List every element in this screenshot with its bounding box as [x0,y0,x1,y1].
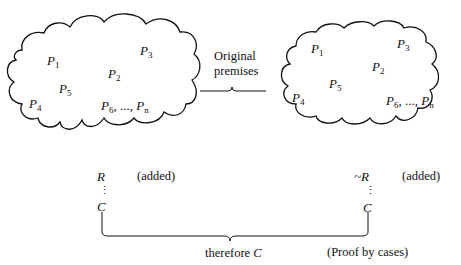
right-premise-p5: P5 [329,77,341,93]
right-case-assumption: ~R [354,170,369,183]
left-premise-range: P6, ..., Pn [101,99,149,115]
right-premise-range: P6, ..., Pn [386,94,434,110]
therefore-conclusion: therefore C [205,247,262,260]
original-premises-label: Originalpremises [214,50,252,77]
original-premises-brace [200,87,266,91]
proof-by-cases-label: (Proof by cases) [327,246,408,259]
left-premise-p5: P5 [59,82,71,98]
right-premise-p2: P2 [372,60,384,76]
left-premise-p4: P4 [29,97,41,113]
right-case-ellipsis: ⋮ [365,185,376,196]
right-premise-p4: P4 [292,91,304,107]
left-premise-p1: P1 [47,54,59,70]
right-premise-p1: P1 [311,42,323,58]
left-case-assumption: R [97,170,105,183]
diagram-lines [0,0,461,265]
left-case-conclusion: C [97,200,106,213]
right-case-conclusion: C [363,201,372,214]
right-premise-p3: P3 [397,37,409,53]
left-premise-p3: P3 [140,44,152,60]
left-case-ellipsis: ⋮ [99,185,110,196]
right-case-note: (added) [402,170,440,183]
proof-by-cases-brace [102,212,368,241]
left-case-note: (added) [137,170,175,183]
left-premise-p2: P2 [108,67,120,83]
